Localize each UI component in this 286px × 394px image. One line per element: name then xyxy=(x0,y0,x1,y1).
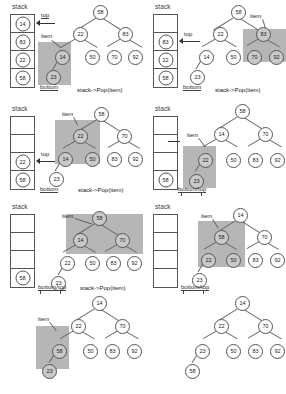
tree-node: 58 xyxy=(94,107,109,122)
stack-cell[interactable]: 83 xyxy=(154,33,177,51)
stack-cell[interactable]: 22 xyxy=(154,51,177,69)
stack-cell[interactable] xyxy=(11,135,34,153)
item-label: item xyxy=(41,33,52,39)
panel-4: stack 58 bottom/top item 58 14 70 22 50 … xyxy=(143,98,286,196)
stack-title: stack xyxy=(155,203,171,210)
tree-node: 50 xyxy=(85,256,100,271)
stack-column: stack 58 xyxy=(153,116,178,190)
tree-node: 50 xyxy=(226,153,241,168)
tree-node: 70 xyxy=(107,50,122,65)
stack-column: stack 14 83 22 58 xyxy=(10,14,35,88)
pointer-tick xyxy=(60,291,61,294)
top-label: top xyxy=(41,12,49,19)
stack-node: 22 xyxy=(158,52,173,67)
top-pointer-arrow xyxy=(37,20,55,27)
stack-node: 83 xyxy=(15,34,30,49)
stack-title: stack xyxy=(12,3,28,10)
stack-cell[interactable] xyxy=(154,117,177,135)
tree-node: 14 xyxy=(235,296,250,311)
top-pointer-arrow xyxy=(168,138,180,145)
tree-node: 50 xyxy=(226,344,241,359)
tree-node-highlighted: 58 xyxy=(52,344,67,359)
tree-node-highlighted: 22 xyxy=(201,253,216,268)
stack-node: 58 xyxy=(158,71,173,86)
stack-title: stack xyxy=(12,105,28,112)
panel-3: stack 22 58 top bottom item 58 22 70 14 … xyxy=(0,98,143,196)
tree-node: 70 xyxy=(257,230,272,245)
tree-node: 83 xyxy=(248,153,263,168)
stack-cell[interactable]: 58 xyxy=(11,269,34,287)
stack-cell[interactable] xyxy=(11,233,34,251)
tree-node: 92 xyxy=(128,152,143,167)
stack-cell[interactable]: 14 xyxy=(11,15,34,33)
tree-node-highlighted: 58 xyxy=(92,211,107,226)
item-label: item xyxy=(38,316,49,322)
tree-node-highlighted: 70 xyxy=(115,233,130,248)
item-label: item xyxy=(62,111,73,117)
tree-node: 92 xyxy=(127,344,142,359)
tree-node: 22 xyxy=(60,256,75,271)
tree-node: 50 xyxy=(85,50,100,65)
panel-6: stack bottom/top item 14 58 70 22 50 83 … xyxy=(143,196,286,294)
tree-node: 23 xyxy=(190,70,205,85)
tree-node-highlighted: 58 xyxy=(214,230,229,245)
tree-node: 70 xyxy=(117,129,132,144)
stack-cell[interactable]: 58 xyxy=(11,171,34,189)
item-label: item xyxy=(187,132,198,138)
stack-cell[interactable] xyxy=(154,269,177,287)
bottom-label: bottom xyxy=(183,84,201,91)
stack-node: 58 xyxy=(158,173,173,188)
stack-cell[interactable]: 58 xyxy=(11,69,34,87)
pointer-tick xyxy=(181,193,182,196)
stack-cell[interactable]: 83 xyxy=(11,33,34,51)
stack-cell[interactable]: 22 xyxy=(11,153,34,171)
tree-node: 92 xyxy=(127,256,142,271)
stack-node: 22 xyxy=(15,52,30,67)
stack-cell[interactable]: 58 xyxy=(154,69,177,87)
stack-cell[interactable] xyxy=(154,215,177,233)
bottom-top-label: bottom/top xyxy=(178,186,206,193)
pointer-tick xyxy=(203,291,204,294)
stack-cell[interactable]: 22 xyxy=(11,51,34,69)
stack-title: stack xyxy=(12,203,28,210)
tree-node: 14 xyxy=(199,50,214,65)
pointer-tick xyxy=(40,291,41,294)
top-label: top xyxy=(184,31,192,37)
top-pointer-arrow xyxy=(180,38,200,45)
tree-node-highlighted: 92 xyxy=(269,50,284,65)
stack-cell[interactable] xyxy=(154,15,177,33)
panel-5: stack 58 bottom/top item 58 14 70 22 50 … xyxy=(0,196,143,294)
tree-node: 70 xyxy=(258,319,273,334)
tree-node-highlighted: 22 xyxy=(73,129,88,144)
stack-column: stack xyxy=(153,214,178,288)
pointer-tick xyxy=(201,193,202,196)
item-label: item xyxy=(62,213,73,219)
stack-box: 14 83 22 58 xyxy=(10,14,35,88)
stack-cell[interactable] xyxy=(11,251,34,269)
panel-caption: stack->Pop(item) xyxy=(78,187,124,193)
bottom-label: bottom xyxy=(40,84,58,91)
stack-column: stack 58 xyxy=(10,214,35,288)
stack-cell[interactable] xyxy=(154,251,177,269)
stack-cell[interactable] xyxy=(11,215,34,233)
tree-node-highlighted: 14 xyxy=(58,152,73,167)
stack-cell[interactable] xyxy=(154,233,177,251)
stack-box xyxy=(153,214,178,288)
pointer-tick xyxy=(183,291,184,294)
tree-node: 83 xyxy=(105,344,120,359)
tree-node: 58 xyxy=(185,364,200,379)
tree-node: 14 xyxy=(92,296,107,311)
tree-node: 70 xyxy=(258,127,273,142)
tree-node: 83 xyxy=(118,27,133,42)
tree-node: 23 xyxy=(49,172,64,187)
tree-node-highlighted: 70 xyxy=(247,50,262,65)
tree-node-highlighted: 50 xyxy=(85,152,100,167)
top-label: top xyxy=(41,151,49,157)
stack-cell[interactable] xyxy=(11,117,34,135)
tree-node-highlighted: 14 xyxy=(73,233,88,248)
tree-node-highlighted: 23 xyxy=(42,364,57,379)
stack-cell[interactable]: 58 xyxy=(154,171,177,189)
panel-1: stack 14 83 22 58 top bottom item 58 22 … xyxy=(0,0,143,98)
stack-cell[interactable] xyxy=(154,153,177,171)
tree-node-highlighted: 50 xyxy=(226,253,241,268)
